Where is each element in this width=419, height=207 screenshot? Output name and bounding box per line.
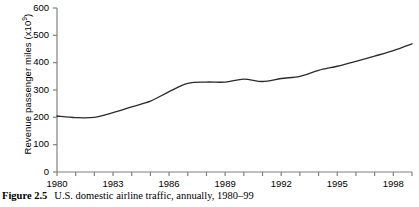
x-tick-label: 1986 [149, 178, 189, 189]
y-tick-label: 500 [15, 29, 49, 40]
y-tick-label: 200 [15, 111, 49, 122]
x-axis-ticks [57, 172, 412, 176]
y-axis-title-close: ) [22, 14, 33, 17]
figure-caption-text: U.S. domestic airline traffic, annually,… [54, 190, 253, 201]
x-tick-label: 1998 [373, 178, 413, 189]
figure-caption: Figure 2.5U.S. domestic airline traffic,… [2, 190, 254, 201]
line-chart-svg [0, 0, 419, 186]
figure-caption-label: Figure 2.5 [2, 190, 47, 201]
x-tick-label: 1995 [317, 178, 357, 189]
y-tick-label: 400 [15, 56, 49, 67]
x-tick-label: 1983 [93, 178, 133, 189]
y-tick-label: 100 [15, 138, 49, 149]
y-tick-label: 0 [15, 166, 49, 177]
x-tick-label: 1989 [205, 178, 245, 189]
x-tick-label: 1992 [261, 178, 301, 189]
figure-container: Revenue passenger miles (x109) 010020030… [0, 0, 419, 207]
y-tick-label: 600 [15, 2, 49, 13]
chart-plot-area: Revenue passenger miles (x109) 010020030… [0, 0, 419, 186]
x-tick-label: 1980 [37, 178, 77, 189]
y-axis-title-exponent: 9 [21, 17, 28, 21]
axis-lines [57, 8, 412, 172]
y-tick-label: 300 [15, 84, 49, 95]
data-series-line [57, 44, 412, 118]
